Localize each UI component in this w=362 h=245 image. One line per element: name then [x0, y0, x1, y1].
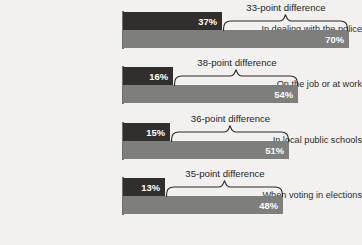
bar-dark-row-2: 16% — [123, 67, 173, 85]
bar-value-dark-row-2: 16% — [149, 71, 168, 82]
bar-light-row-3: 51% — [123, 141, 289, 159]
bar-value-light-row-1: 70% — [325, 34, 344, 45]
bar-dark-row-4: 13% — [123, 178, 165, 196]
bar-dark-row-3: 15% — [123, 123, 170, 141]
bar-value-light-row-2: 54% — [274, 89, 293, 100]
bar-value-dark-row-4: 13% — [141, 182, 160, 193]
bar-value-light-row-4: 48% — [259, 200, 278, 211]
bar-light-row-1: 70% — [123, 30, 349, 48]
bar-value-dark-row-3: 15% — [146, 127, 165, 138]
difference-annotation-row-2: 38-point difference — [173, 57, 301, 68]
bar-dark-row-1: 37% — [123, 12, 222, 30]
bar-light-row-2: 54% — [123, 85, 298, 103]
bar-value-dark-row-1: 37% — [198, 16, 217, 27]
difference-annotation-row-1: 33-point difference — [222, 2, 350, 13]
bar-light-row-4: 48% — [123, 196, 283, 214]
bar-chart: In dealing with the police 37% 70% 33-po… — [0, 0, 362, 245]
difference-annotation-row-4: 35-point difference — [165, 168, 285, 179]
bar-value-light-row-3: 51% — [265, 145, 284, 156]
difference-annotation-row-3: 36-point difference — [170, 113, 291, 124]
